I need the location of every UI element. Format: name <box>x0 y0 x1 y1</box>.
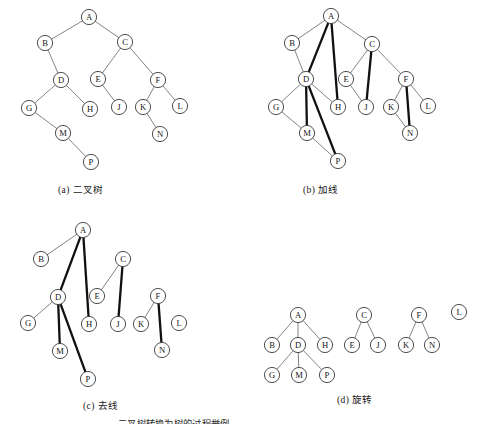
tree-node-E[interactable]: E <box>344 337 359 352</box>
tree-node-A[interactable]: A <box>290 307 305 322</box>
node-circle-M <box>55 125 70 140</box>
panel-b-add-lines: ABCDEFGHJKLMNP <box>268 8 435 168</box>
panel-d-caption: (d) 旋转 <box>337 392 373 406</box>
edge-D-P <box>61 304 86 372</box>
tree-node-H[interactable]: H <box>330 99 345 114</box>
tree-node-B[interactable]: B <box>37 35 52 50</box>
edge-C-E <box>101 265 118 290</box>
tree-node-K[interactable]: K <box>135 99 150 114</box>
edge-A-B <box>298 20 325 38</box>
tree-node-H[interactable]: H <box>317 337 332 352</box>
tree-node-G[interactable]: G <box>21 100 36 115</box>
tree-node-P[interactable]: P <box>330 153 345 168</box>
tree-node-G[interactable]: G <box>20 315 35 330</box>
tree-node-L[interactable]: L <box>420 98 435 113</box>
edge-C-E <box>102 48 120 73</box>
tree-node-N[interactable]: N <box>424 337 439 352</box>
tree-node-L[interactable]: L <box>451 304 466 319</box>
node-circle-F <box>150 72 165 87</box>
tree-node-K[interactable]: K <box>133 316 148 331</box>
node-circle-D <box>290 337 305 352</box>
node-circle-N <box>424 337 439 352</box>
tree-node-E[interactable]: E <box>89 288 104 303</box>
node-circle-F <box>398 71 413 86</box>
node-circle-K <box>383 99 398 114</box>
tree-node-M[interactable]: M <box>52 343 67 358</box>
node-circle-E <box>90 71 105 86</box>
tree-node-F[interactable]: F <box>398 71 413 86</box>
edge-C-J <box>119 267 123 317</box>
tree-node-G[interactable]: G <box>264 367 279 382</box>
tree-node-F[interactable]: F <box>150 288 165 303</box>
node-circle-E <box>338 71 353 86</box>
tree-node-J[interactable]: J <box>358 99 373 114</box>
tree-node-C[interactable]: C <box>364 36 379 51</box>
edge-D-M <box>298 353 299 368</box>
node-circle-K <box>135 99 150 114</box>
node-circle-D <box>298 71 313 86</box>
tree-node-K[interactable]: K <box>383 99 398 114</box>
tree-node-J[interactable]: J <box>370 337 385 352</box>
tree-node-P[interactable]: P <box>83 154 98 169</box>
edge-K-N <box>147 113 156 127</box>
edge-F-K <box>147 87 155 101</box>
tree-node-N[interactable]: N <box>152 126 167 141</box>
tree-node-C[interactable]: C <box>117 34 132 49</box>
edge-A-D <box>61 237 81 290</box>
tree-node-N[interactable]: N <box>154 342 169 357</box>
tree-node-K[interactable]: K <box>398 337 413 352</box>
node-circle-A <box>323 8 338 23</box>
tree-node-A[interactable]: A <box>75 222 90 237</box>
node-circle-J <box>110 316 125 331</box>
tree-node-B[interactable]: B <box>284 35 299 50</box>
tree-node-B[interactable]: B <box>33 251 48 266</box>
edge-G-M <box>35 113 57 129</box>
tree-node-D[interactable]: D <box>290 337 305 352</box>
tree-node-M[interactable]: M <box>291 367 306 382</box>
node-circle-G <box>264 367 279 382</box>
node-circle-J <box>358 99 373 114</box>
node-circle-C <box>117 34 132 49</box>
tree-node-D[interactable]: D <box>53 72 68 87</box>
tree-node-D[interactable]: D <box>298 71 313 86</box>
node-circle-J <box>111 99 126 114</box>
tree-node-E[interactable]: E <box>90 71 105 86</box>
node-circle-N <box>402 125 417 140</box>
tree-node-L[interactable]: L <box>171 315 186 330</box>
tree-node-J[interactable]: J <box>110 316 125 331</box>
tree-node-M[interactable]: M <box>299 125 314 140</box>
tree-node-P[interactable]: P <box>80 371 95 386</box>
tree-node-B[interactable]: B <box>264 337 279 352</box>
edge-D-G <box>34 302 53 318</box>
tree-node-P[interactable]: P <box>319 367 334 382</box>
tree-node-G[interactable]: G <box>268 99 283 114</box>
edge-D-P <box>309 86 335 154</box>
tree-node-A[interactable]: A <box>323 8 338 23</box>
tree-node-D[interactable]: D <box>50 289 65 304</box>
edge-A-C <box>95 21 119 37</box>
panel-b-nodes: ABCDEFGHJKLMNP <box>268 8 435 168</box>
edge-C-J <box>367 52 372 100</box>
tree-node-F[interactable]: F <box>411 307 426 322</box>
tree-node-L[interactable]: L <box>172 98 187 113</box>
edge-D-M <box>58 305 59 344</box>
tree-node-M[interactable]: M <box>55 125 70 140</box>
tree-node-C[interactable]: C <box>115 251 130 266</box>
edge-D-H <box>66 85 84 103</box>
tree-node-A[interactable]: A <box>81 9 96 24</box>
node-circle-B <box>33 251 48 266</box>
panel-d-rotate: ABDHGMPCEJFKNL <box>264 304 466 382</box>
tree-node-H[interactable]: H <box>82 101 97 116</box>
node-circle-L <box>172 98 187 113</box>
tree-node-H[interactable]: H <box>81 316 96 331</box>
tree-node-N[interactable]: N <box>402 125 417 140</box>
node-circle-F <box>411 307 426 322</box>
tree-node-E[interactable]: E <box>338 71 353 86</box>
edge-D-G <box>277 351 293 370</box>
tree-node-F[interactable]: F <box>150 72 165 87</box>
edge-E-J <box>103 85 115 101</box>
node-circle-J <box>370 337 385 352</box>
tree-node-J[interactable]: J <box>111 99 126 114</box>
node-circle-G <box>20 315 35 330</box>
tree-node-C[interactable]: C <box>356 307 371 322</box>
